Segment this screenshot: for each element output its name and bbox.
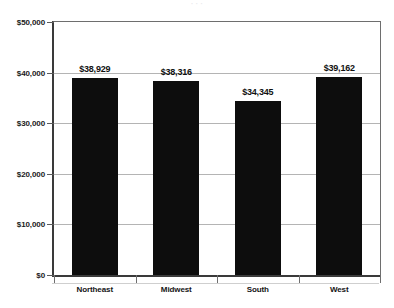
x-axis-tick (299, 275, 300, 283)
y-axis-label: $40,000 (17, 68, 45, 77)
y-axis-label: $50,000 (17, 18, 45, 27)
bar-value-label: $38,929 (79, 64, 110, 74)
cropped-title-remnant: · · · (0, 0, 394, 7)
y-axis-label: $30,000 (17, 119, 45, 128)
x-axis-category-label: West (330, 285, 349, 294)
x-axis-tick (54, 275, 55, 283)
y-axis-tick (47, 22, 54, 23)
bar-value-label: $38,316 (161, 67, 192, 77)
x-axis-tick (136, 275, 137, 283)
y-axis-tick (47, 73, 54, 74)
x-axis-category-label: Northeast (77, 285, 113, 294)
x-axis-category-label: Midwest (161, 285, 192, 294)
x-axis-category-label: South (247, 285, 269, 294)
bar-chart: · · · $50,000$40,000$30,000$20,000$10,00… (0, 0, 394, 308)
y-axis-tick (47, 224, 54, 225)
x-axis-tick (217, 275, 218, 283)
y-axis-tick (47, 275, 54, 276)
bar-midwest: $38,316 (153, 81, 199, 275)
plot-area: $50,000$40,000$30,000$20,000$10,000$0$38… (52, 21, 381, 277)
bar-value-label: $34,345 (242, 87, 273, 97)
x-axis-baseline (52, 283, 379, 284)
bar-west: $39,162 (316, 77, 362, 275)
bar-value-label: $39,162 (324, 63, 355, 73)
y-axis-tick (47, 123, 54, 124)
y-axis-label: $0 (36, 271, 45, 280)
y-axis-tick (47, 174, 54, 175)
bar-south: $34,345 (235, 101, 281, 275)
x-axis-tick (380, 275, 381, 283)
bar-northeast: $38,929 (72, 78, 118, 275)
y-axis-label: $10,000 (17, 220, 45, 229)
y-axis-label: $20,000 (17, 169, 45, 178)
